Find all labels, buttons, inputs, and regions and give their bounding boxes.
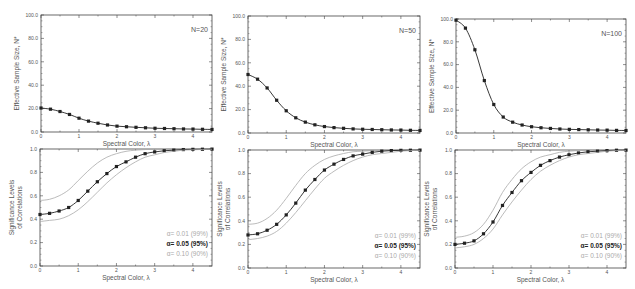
x-tick-label: 1 [285,134,288,140]
legend-entry: α= 0.05 (95%) [581,242,622,250]
data-point-marker [501,204,504,207]
data-point-marker [210,128,213,131]
y-tick-label: 0.8 [30,169,37,175]
legend-entry: α= 0.05 (95%) [167,240,208,248]
x-tick-label: 1 [77,267,80,273]
y-tick-label: 100.0 [440,16,453,22]
x-axis-label: Spectral Color, λ [102,274,150,282]
data-point-marker [463,242,466,245]
y-tick-label: 100.0 [25,12,38,18]
x-axis-label: Spectral Color, λ [517,141,565,149]
x-tick-label: 3 [568,269,571,275]
plot-frame [248,16,420,133]
data-point-marker [124,160,127,163]
y-tick-label: 20.0 [443,107,453,113]
data-point-marker [548,159,551,162]
data-point-marker [605,149,608,152]
data-point-marker [352,154,355,157]
x-tick-label: 1 [492,134,495,140]
data-point-marker [144,126,147,129]
data-point-marker [58,110,61,113]
data-point-marker [246,73,249,76]
legend-entry: α= 0.10 (90%) [167,250,208,258]
x-tick-label: 2 [323,134,326,140]
data-point-marker [361,128,364,131]
y-tick-label: 0.0 [238,130,245,136]
data-point-marker [86,190,89,193]
y-tick-label: 0.0 [446,130,453,136]
plot-frame [248,150,420,268]
data-point-marker [558,127,561,130]
x-tick-label: 4 [399,134,402,140]
y-tick-label: 0.0 [445,265,452,271]
sample-size-annotation: N=100 [601,30,622,37]
data-point-marker [371,128,374,131]
data-point-marker [596,128,599,131]
data-point-marker [256,78,259,81]
y-axis-label: Significance Levels [8,179,16,235]
y-tick-label: 0.6 [30,193,37,199]
chart-panel-top-right: 012340.020.040.060.080.0100.0Spectral Co… [428,16,628,149]
data-point-marker [49,108,52,111]
data-point-marker [472,239,475,242]
data-point-marker [615,129,618,132]
y-tick-label: 60.0 [235,60,245,66]
data-point-marker [371,151,374,154]
y-axis-label-line2: of Correlations [16,186,23,229]
data-point-marker [390,128,393,131]
y-tick-label: 40.0 [235,83,245,89]
legend-entry: α= 0.10 (90%) [375,252,416,260]
data-point-marker [266,229,269,232]
y-tick-label: 60.0 [443,61,453,67]
data-point-marker [529,171,532,174]
data-point-marker [342,158,345,161]
data-point-marker [332,163,335,166]
x-tick-label: 4 [191,267,194,273]
x-tick-label: 4 [606,134,609,140]
data-point-marker [530,125,533,128]
legend-entry: α= 0.01 (99%) [581,232,622,240]
data-point-marker [409,129,412,132]
y-tick-label: 0.4 [238,218,245,224]
x-tick-label: 3 [154,133,157,139]
data-point-marker [172,127,175,130]
data-point-marker [96,180,99,183]
series-line [40,149,212,214]
series-line [40,149,212,200]
x-tick-label: 3 [361,134,364,140]
data-point-marker [153,150,156,153]
data-point-marker [586,150,589,153]
x-tick-label: 4 [399,269,402,275]
data-point-marker [577,128,580,131]
plot-frame [41,15,212,132]
x-tick-label: 1 [492,269,495,275]
data-point-marker [606,129,609,132]
legend-entry: α= 0.05 (95%) [375,242,416,250]
data-point-marker [313,178,316,181]
x-tick-label: 0 [247,134,250,140]
y-axis-label: Effective Sample Size, N* [220,37,228,111]
data-point-marker [304,189,307,192]
data-point-marker [115,125,118,128]
data-point-marker [125,125,128,128]
data-point-marker [246,233,249,236]
y-tick-label: 0.2 [238,241,245,247]
chart-panel-top-left: 012340.020.040.060.080.0100.0Spectral Co… [13,12,214,148]
y-tick-label: 40.0 [443,84,453,90]
x-axis-label: Spectral Color, λ [517,276,565,284]
data-point-marker [549,127,552,130]
y-tick-label: 0.4 [445,218,452,224]
series-line [248,75,420,131]
data-point-marker [323,168,326,171]
legend-entry: α= 0.01 (99%) [375,232,416,240]
chart-panel-bottom-middle: 012340.00.20.40.60.81.0Spectral Color, λ… [216,147,422,284]
x-tick-label: 1 [285,269,288,275]
x-tick-label: 2 [530,134,533,140]
y-axis-label-line2: of Correlations [431,187,438,230]
data-point-marker [492,103,495,106]
data-point-marker [587,128,590,131]
y-tick-label: 1.0 [30,146,37,152]
chart-panel-top-middle: 012340.020.040.060.080.0100.0Spectral Co… [220,13,422,149]
data-point-marker [352,127,355,130]
data-point-marker [105,172,108,175]
